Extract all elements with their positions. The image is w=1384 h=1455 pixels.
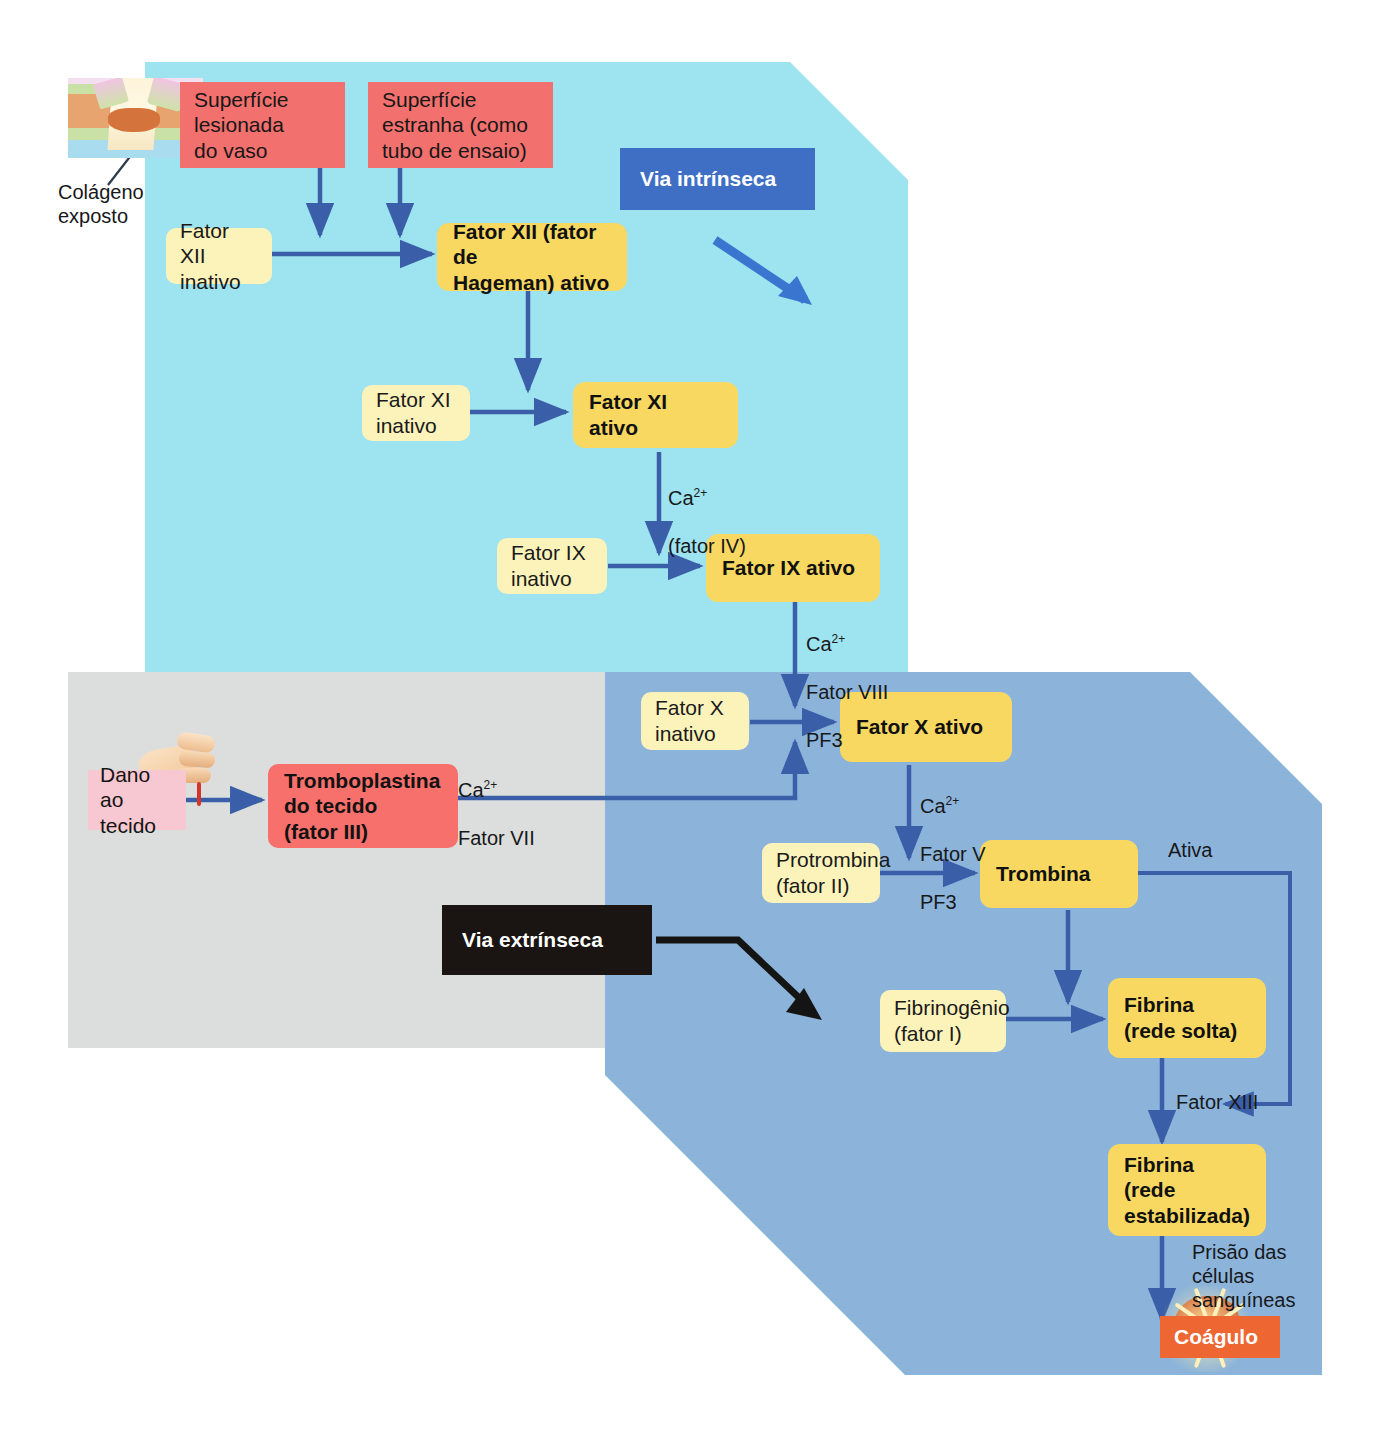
label-ca-factor-iv-text: (fator IV) bbox=[668, 535, 746, 557]
label-pf3-b: PF3 bbox=[920, 891, 957, 913]
label-ca-factor-viii-ion: Ca bbox=[806, 633, 832, 655]
label-factor-vii: Fator VII bbox=[458, 827, 535, 849]
label-blood-cell-trapping: Prisão das células sanguíneas bbox=[1192, 1240, 1295, 1312]
label-ca-factor-v-pf3: Ca2+ Fator V PF3 bbox=[920, 770, 986, 914]
label-ca-factor-v-ion: Ca bbox=[920, 795, 946, 817]
node-factor-xi-active: Fator XI ativo bbox=[573, 382, 738, 448]
label-factor-v: Fator V bbox=[920, 843, 986, 865]
label-ca-factor-iv-charge: 2+ bbox=[694, 486, 708, 500]
label-ca-factor-vii: Ca2+ Fator VII bbox=[458, 754, 535, 850]
label-ca-factor-iv-ion: Ca bbox=[668, 487, 694, 509]
label-factor-viii: Fator VIII bbox=[806, 681, 888, 703]
node-fibrin-loose: Fibrina (rede solta) bbox=[1108, 978, 1266, 1058]
node-thrombin: Trombina bbox=[980, 840, 1138, 908]
node-factor-xii-inactive: Fator XII inativo bbox=[166, 228, 272, 284]
label-ca-factor-vii-ion: Ca bbox=[458, 779, 484, 801]
label-exposed-collagen: Colágeno exposto bbox=[58, 180, 144, 228]
label-ca-factor-viii-pf3: Ca2+ Fator VIII PF3 bbox=[806, 608, 888, 752]
node-factor-xii-active: Fator XII (fator de Hageman) ativo bbox=[437, 223, 627, 291]
label-ca-factor-iv: Ca2+ (fator IV) bbox=[668, 462, 746, 558]
node-fibrinogen: Fibrinogênio (fator I) bbox=[880, 990, 1006, 1052]
node-tissue-thromboplastin: Tromboplastina do tecido (fator III) bbox=[268, 764, 458, 848]
label-ca-factor-v-charge: 2+ bbox=[946, 794, 960, 808]
node-factor-xi-inactive: Fator XI inativo bbox=[362, 385, 470, 441]
banner-intrinsic-pathway: Via intrínseca bbox=[620, 148, 815, 210]
node-prothrombin: Protrombina (fator II) bbox=[762, 843, 880, 903]
node-injured-vessel-surface: Superfície lesionada do vaso bbox=[180, 82, 345, 168]
node-factor-x-inactive: Fator X inativo bbox=[641, 692, 749, 750]
coagulation-cascade-diagram: Superfície lesionada do vaso Superfície … bbox=[0, 0, 1384, 1455]
node-foreign-surface: Superfície estranha (como tubo de ensaio… bbox=[368, 82, 553, 168]
node-tissue-damage: Dano ao tecido bbox=[88, 770, 186, 830]
banner-extrinsic-pathway: Via extrínseca bbox=[442, 905, 652, 975]
node-clot: Coágulo bbox=[1160, 1316, 1280, 1358]
label-activates: Ativa bbox=[1168, 838, 1212, 862]
node-factor-ix-inactive: Fator IX inativo bbox=[497, 538, 607, 594]
label-pf3-a: PF3 bbox=[806, 729, 843, 751]
label-ca-factor-vii-charge: 2+ bbox=[484, 778, 498, 792]
label-factor-xiii: Fator XIII bbox=[1176, 1090, 1258, 1114]
node-fibrin-stabilized: Fibrina (rede estabilizada) bbox=[1108, 1144, 1266, 1236]
label-ca-factor-viii-charge: 2+ bbox=[832, 632, 846, 646]
